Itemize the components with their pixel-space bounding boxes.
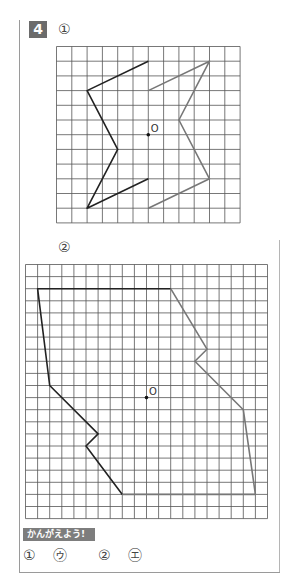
page-frame-bottom	[19, 572, 280, 573]
grid-part-1: O	[56, 46, 242, 224]
part-1-label: ①	[58, 22, 71, 36]
answer-1-choice: ㋒	[53, 548, 67, 562]
center-label: O	[151, 123, 159, 134]
center-point	[145, 396, 149, 400]
center-label: O	[149, 386, 157, 397]
hint-title: かんがえよう!	[23, 528, 95, 541]
answer-2-number: ②	[98, 548, 111, 562]
page-frame-right	[279, 240, 280, 572]
page-frame-left	[19, 20, 20, 572]
answer-1-number: ①	[23, 548, 36, 562]
problem-number-badge: 4	[29, 21, 47, 38]
grid-part-2: O	[25, 264, 270, 521]
answer-2-choice: ㋓	[128, 548, 142, 562]
part-2-label: ②	[58, 240, 71, 254]
rotated-shape	[122, 289, 255, 495]
center-point	[147, 133, 151, 137]
